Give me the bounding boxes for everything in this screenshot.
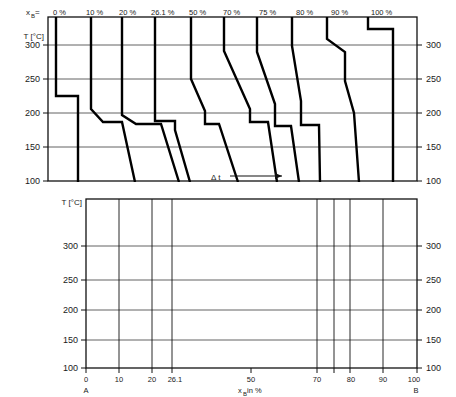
bottom-panel-x-ticks: [86, 368, 417, 373]
curve-50pct: [191, 17, 238, 182]
phase-diagram-figure: 300 250 200 150 100 300 250 200 150 100 …: [0, 0, 456, 397]
top-panel-left-ticks: [43, 45, 48, 181]
curve-0pct: [56, 17, 78, 182]
curve-label-50: 50 %: [189, 8, 206, 17]
bottom-panel-vertical-gridlines: [119, 199, 383, 368]
delta-t-arrow-head-icon: [275, 173, 282, 179]
bottom-xlabel-80: 80: [347, 375, 355, 384]
bottom-x-axis-label-x: x: [238, 386, 242, 395]
corner-label-x: x: [26, 8, 30, 17]
corner-label-equals: =: [35, 8, 40, 17]
bottom-xlabel-20: 20: [148, 375, 156, 384]
bottom-xlabel-90: 90: [379, 375, 387, 384]
bottom-ytick-label-300: 300: [63, 241, 78, 251]
bottom-xlabel-50: 50: [247, 375, 255, 384]
top-panel-horizontal-gridlines: [48, 45, 417, 147]
bottom-ytick-label-100: 100: [63, 363, 78, 373]
top-ytick-right-label-250: 250: [426, 74, 441, 84]
top-panel-frame: [48, 17, 417, 181]
top-panel-y-axis-label: T [°C]: [24, 32, 44, 41]
curve-70pct: [224, 17, 277, 182]
bottom-ytick-right-label-150: 150: [426, 335, 441, 345]
top-ytick-label-200: 200: [25, 108, 40, 118]
curve-label-0: 0 %: [53, 8, 66, 17]
top-panel-curves: [56, 17, 393, 182]
bottom-x-axis-label-unit: in %: [247, 386, 262, 395]
top-ytick-label-300: 300: [25, 40, 40, 50]
bottom-panel-x-axis-label: x B in %: [238, 386, 262, 397]
curve-10pct: [91, 17, 135, 182]
bottom-panel: 300 250 200 150 100 300 250 200 150 100 …: [62, 198, 441, 397]
bottom-endpoint-label-a: A: [83, 386, 88, 395]
bottom-ytick-label-150: 150: [63, 335, 78, 345]
bottom-ytick-right-label-200: 200: [426, 305, 441, 315]
top-ytick-right-label-200: 200: [426, 108, 441, 118]
bottom-ytick-label-200: 200: [63, 305, 78, 315]
bottom-xlabel-261: 26.1: [168, 375, 183, 384]
curve-label-80: 80 %: [296, 8, 313, 17]
top-panel-corner-label: x B =: [26, 8, 40, 19]
top-ytick-label-250: 250: [25, 74, 40, 84]
top-ytick-right-label-100: 100: [426, 176, 441, 186]
curve-label-70: 70 %: [223, 8, 240, 17]
bottom-xlabel-100: 100: [408, 375, 421, 384]
bottom-xlabel-70: 70: [313, 375, 321, 384]
top-ytick-right-label-300: 300: [426, 40, 441, 50]
bottom-endpoint-label-b: B: [413, 386, 418, 395]
bottom-xlabel-10: 10: [115, 375, 123, 384]
curve-label-261: 26.1 %: [151, 8, 175, 17]
bottom-ytick-label-250: 250: [63, 275, 78, 285]
bottom-ytick-right-label-100: 100: [426, 363, 441, 373]
bottom-ytick-right-label-250: 250: [426, 275, 441, 285]
top-panel-x-axis-label: Δ t: [211, 173, 221, 182]
top-ytick-label-150: 150: [25, 142, 40, 152]
curve-label-90: 90 %: [331, 8, 348, 17]
bottom-panel-horizontal-gridlines: [86, 246, 417, 340]
bottom-ytick-right-label-300: 300: [426, 241, 441, 251]
curve-label-75: 75 %: [259, 8, 276, 17]
top-panel-curve-labels: 0 % 10 % 20 % 26.1 % 50 % 70 % 75 % 80 %…: [53, 8, 393, 17]
curve-100pct: [368, 17, 393, 182]
figure-root: 300 250 200 150 100 300 250 200 150 100 …: [0, 0, 456, 397]
top-panel-right-ticks: [417, 45, 422, 181]
top-panel: 300 250 200 150 100 300 250 200 150 100 …: [24, 8, 441, 186]
curve-90pct: [327, 17, 359, 182]
top-ytick-right-label-150: 150: [426, 142, 441, 152]
bottom-panel-x-tick-labels: 0 10 20 26.1 50 70 80 90 100: [84, 375, 420, 384]
bottom-panel-right-ticks: [417, 246, 422, 368]
bottom-xlabel-0: 0: [84, 375, 88, 384]
bottom-panel-y-axis-label: T [°C]: [62, 198, 82, 207]
bottom-panel-left-ticks: [81, 246, 86, 368]
curve-label-20: 20 %: [119, 8, 136, 17]
bottom-panel-frame: [86, 199, 417, 368]
curve-label-100: 100 %: [371, 8, 393, 17]
curve-label-10: 10 %: [86, 8, 103, 17]
top-ytick-label-100: 100: [25, 176, 40, 186]
